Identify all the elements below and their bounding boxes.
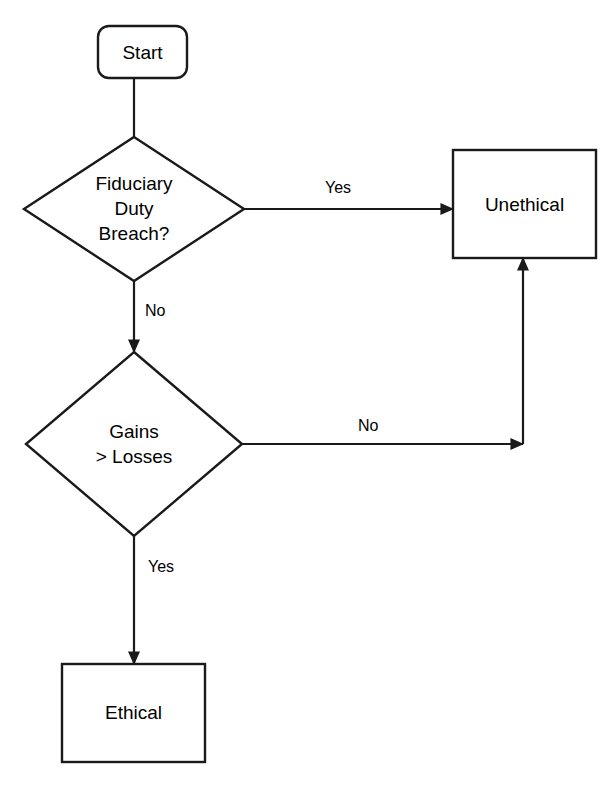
node-start-shape[interactable]	[98, 26, 187, 78]
flowchart-canvas: Start Fiduciary Duty Breach? Unethical G…	[0, 0, 615, 788]
edge-label-fiduciary-yes: Yes	[325, 179, 351, 197]
edge-label-gains-no: No	[358, 417, 378, 435]
node-fiduciary-decision-shape[interactable]	[24, 137, 244, 281]
node-unethical-shape[interactable]	[453, 150, 596, 258]
flowchart-svg	[0, 0, 615, 788]
edge-label-fiduciary-no: No	[145, 302, 165, 320]
node-gains-decision-shape[interactable]	[26, 352, 242, 536]
edge-label-gains-yes: Yes	[148, 558, 174, 576]
node-ethical-shape[interactable]	[62, 664, 205, 762]
